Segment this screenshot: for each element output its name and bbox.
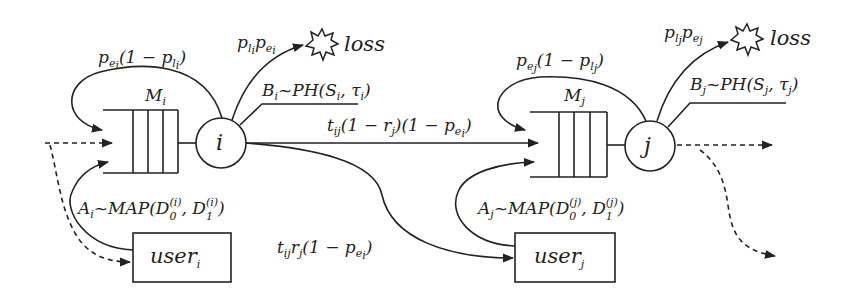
arrival-label-j: Aj~MAP(D0(j), D1(j))	[476, 196, 624, 223]
edge-i-to-user-j	[246, 143, 513, 258]
server-i-label: i	[216, 130, 223, 155]
loss-label-j: loss	[770, 26, 811, 50]
user-i-label: useri	[150, 244, 200, 271]
loss-label-i: loss	[344, 32, 385, 56]
self-loop-label-j: pej(1 − plj)	[516, 50, 604, 75]
user-j-label: userj	[534, 244, 585, 271]
edge-i-to-user-j-label: tijrj(1 − pei)	[277, 237, 372, 262]
server-j-label: j	[639, 133, 651, 158]
loss-burst-icon-j	[731, 24, 763, 55]
queueing-network-diagram: Mi i pei(1 − pli) plipei loss Bi~PH(Si, …	[0, 0, 852, 305]
queue-i	[103, 110, 196, 173]
service-label-i: Bi~PH(Si, τi)	[261, 80, 371, 103]
service-label-j: Bj~PH(Sj, τj)	[689, 74, 798, 97]
arrival-label-i: Ai~MAP(D0(i), D1(i))	[76, 196, 225, 223]
queue-i-label: Mi	[144, 85, 166, 108]
loss-prob-label-j: pljpej	[664, 22, 703, 47]
service-line-j	[668, 103, 786, 127]
queue-j	[530, 112, 625, 177]
queue-j-label: Mj	[563, 85, 585, 108]
edge-i-to-queue-j-label: tij(1 − rj)(1 − pei)	[327, 115, 472, 140]
dashed-departure-down-j	[700, 150, 775, 256]
loss-prob-label-i: plipei	[237, 32, 276, 57]
loss-burst-icon-i	[306, 29, 338, 60]
self-loop-label-i: pei(1 − pli)	[98, 47, 186, 72]
